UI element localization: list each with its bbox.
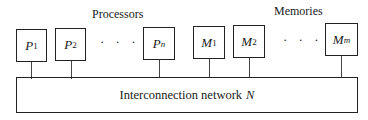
wire-m2 xyxy=(249,58,250,77)
processor-index: n xyxy=(161,39,166,49)
processor-box-p1: P1 xyxy=(16,29,47,62)
network-label: Interconnection network xyxy=(120,88,243,103)
memory-index: m xyxy=(344,35,351,45)
memory-index: 2 xyxy=(252,37,257,47)
memory-box-m2: M2 xyxy=(233,25,265,58)
memory-box-m1: M1 xyxy=(193,26,225,59)
processor-index: 1 xyxy=(33,41,38,51)
memory-symbol: M xyxy=(201,35,212,51)
wire-m1 xyxy=(209,59,210,78)
network-symbol: N xyxy=(246,88,254,103)
processor-box-pn: Pn xyxy=(143,27,175,60)
wire-mm xyxy=(341,56,342,77)
memory-symbol: M xyxy=(333,32,344,48)
memory-index: 1 xyxy=(212,38,217,48)
processor-symbol: P xyxy=(25,38,33,54)
interconnection-network: Interconnection networkN xyxy=(16,77,358,113)
processor-symbol: P xyxy=(153,36,161,52)
processor-index: 2 xyxy=(72,40,77,50)
memory-symbol: M xyxy=(241,34,252,50)
processor-symbol: P xyxy=(64,37,72,53)
memory-box-mm: Mm xyxy=(325,23,358,56)
wire-pn xyxy=(159,60,160,78)
processor-box-p2: P2 xyxy=(55,28,86,61)
memories-ellipsis: · · · xyxy=(283,32,323,48)
memories-label: Memories xyxy=(274,4,323,19)
processors-ellipsis: · · · xyxy=(100,34,140,50)
processors-label: Processors xyxy=(92,7,143,22)
